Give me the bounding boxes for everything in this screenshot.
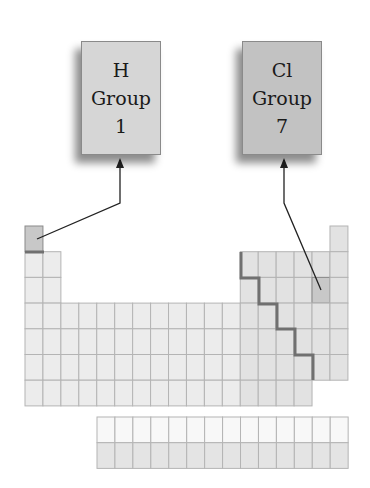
element-cell [61,380,79,406]
element-cell [25,252,43,278]
element-cell [186,329,204,355]
element-cell [258,380,276,406]
element-cell [97,380,115,406]
f-block-cell [276,417,294,443]
element-cell [97,303,115,329]
f-block-cell [169,443,187,469]
element-cell [330,226,348,252]
element-cell [79,329,97,355]
f-block-cell [115,417,133,443]
element-cell [330,329,348,355]
element-cell [294,277,312,303]
arrowhead-icon [280,158,288,168]
f-block-cell [97,417,115,443]
f-block-cell [330,443,348,469]
element-cell [294,355,312,381]
f-block-cell [312,443,330,469]
element-cell [133,303,151,329]
element-cell [169,380,187,406]
f-block-cell [169,417,187,443]
hydrogen-label-box: H Group 1 [81,41,161,155]
f-block-cell [241,443,259,469]
f-block-cell [276,443,294,469]
element-cell [240,355,258,381]
element-cell [133,329,151,355]
element-cell [25,355,43,381]
element-cell [79,303,97,329]
element-cell [186,380,204,406]
element-cell [79,355,97,381]
element-cell [258,329,276,355]
element-cell [222,303,240,329]
element-cell [222,329,240,355]
element-cell [43,355,61,381]
element-cell [43,380,61,406]
element-cell [240,380,258,406]
element-cell [240,303,258,329]
element-cell [312,277,330,303]
group-number: 1 [115,112,127,140]
element-cell [258,277,276,303]
element-cell [204,355,222,381]
periodic-table-grid [25,226,348,406]
element-cell [294,303,312,329]
f-block-cell [187,443,205,469]
element-symbol: H [113,56,130,84]
element-cell [133,380,151,406]
group-word: Group [91,84,151,112]
element-cell [312,329,330,355]
element-cell [25,303,43,329]
chlorine-label-box: Cl Group 7 [242,41,322,155]
element-cell [25,277,43,303]
element-cell [276,355,294,381]
element-cell [294,380,312,406]
f-block-grid [97,417,348,468]
f-block-cell [205,417,223,443]
element-cell [61,355,79,381]
element-cell [151,329,169,355]
element-cell [294,329,312,355]
f-block-cell [151,417,169,443]
element-cell [330,252,348,278]
element-cell [258,355,276,381]
element-cell [115,355,133,381]
f-block-cell [312,417,330,443]
element-cell [169,303,187,329]
element-cell [276,303,294,329]
f-block-cell [294,443,312,469]
element-cell [169,355,187,381]
element-cell [43,277,61,303]
f-block-cell [223,417,241,443]
element-cell [186,355,204,381]
element-cell [330,303,348,329]
element-cell [25,380,43,406]
f-block-cell [133,443,151,469]
f-block-cell [294,417,312,443]
element-cell [258,252,276,278]
element-cell [240,329,258,355]
element-cell [312,252,330,278]
arrow-hydrogen [37,158,124,239]
f-block-cell [151,443,169,469]
element-cell [43,329,61,355]
f-block-cell [223,443,241,469]
f-block-cell [258,443,276,469]
element-cell [115,380,133,406]
element-cell [276,277,294,303]
element-cell [276,380,294,406]
group-word: Group [252,84,312,112]
element-cell [151,380,169,406]
f-block-cell [187,417,205,443]
f-block-cell [133,417,151,443]
element-cell [169,329,187,355]
arrowhead-icon [116,158,124,168]
element-cell [330,355,348,381]
element-cell [25,329,43,355]
element-cell [294,252,312,278]
element-cell [61,303,79,329]
group-number: 7 [276,112,288,140]
element-cell [222,380,240,406]
element-cell [276,329,294,355]
element-cell [115,329,133,355]
element-cell [133,355,151,381]
